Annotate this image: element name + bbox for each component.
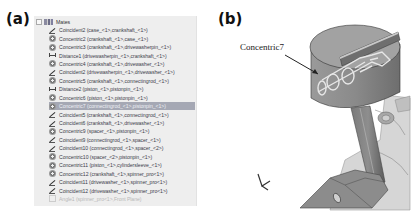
model-viewport[interactable] (0, 0, 419, 221)
piston (310, 25, 400, 108)
connecting-rod (300, 106, 388, 208)
concentric7-callout: Concentric7 (240, 42, 284, 52)
axis-triad-icon (258, 174, 270, 190)
